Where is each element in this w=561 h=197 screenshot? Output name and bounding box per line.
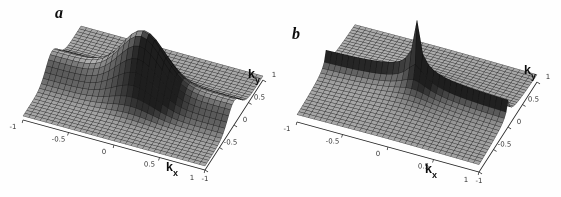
x-axis-label-base: k — [425, 162, 432, 176]
surface-plot-a-canvas — [0, 0, 277, 197]
panel-a-y-axis-label: ky — [248, 68, 260, 84]
panel-a-x-axis-label: kx — [166, 161, 178, 177]
panel-b-x-axis-label: kx — [425, 163, 437, 179]
y-axis-label-base: k — [524, 63, 531, 77]
y-axis-label-base: k — [248, 67, 255, 81]
surface-plot-b-canvas — [277, 0, 561, 197]
y-axis-label-subscript: y — [255, 75, 260, 85]
panel-b: b kx ky — [277, 0, 561, 197]
x-axis-label-subscript: x — [432, 170, 437, 180]
x-axis-label-base: k — [166, 160, 173, 174]
panel-a-label: a — [55, 5, 63, 21]
panel-b-y-axis-label: ky — [524, 64, 536, 80]
panel-a: a kx ky — [0, 0, 277, 197]
x-axis-label-subscript: x — [173, 168, 178, 178]
panel-b-label: b — [292, 26, 300, 42]
y-axis-label-subscript: y — [531, 71, 536, 81]
two-panel-surface-figure: a kx ky b kx ky — [0, 0, 561, 197]
